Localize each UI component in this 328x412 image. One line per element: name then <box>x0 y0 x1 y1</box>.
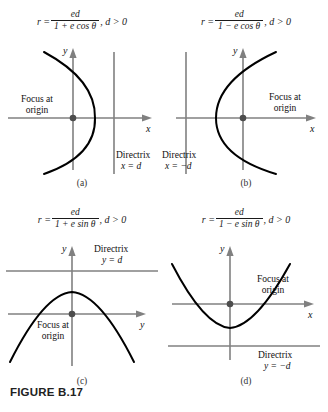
y-axis-label: y <box>220 244 224 254</box>
x-axis-label: x <box>146 124 150 134</box>
formula-b-lhs: r = <box>201 17 214 27</box>
formula-a-condition: , d > 0 <box>100 17 127 27</box>
y-axis-arrow <box>226 246 233 256</box>
focus-label-line2-b: origin <box>250 103 320 114</box>
x-axis-arrow <box>304 300 314 307</box>
formula-d-condition: , d > 0 <box>264 215 291 225</box>
directrix-label-d: Directrix <box>258 350 292 361</box>
plot-b: x y Focus at origin Directrix x = −d <box>164 40 328 178</box>
directrix-equation-c: y = d <box>102 255 122 266</box>
formula-d-numerator: ed <box>216 207 263 218</box>
formula-c-numerator: ed <box>52 207 99 218</box>
panel-caption-d: (d) <box>164 376 328 386</box>
formula-d-denominator: 1 − e sin θ <box>216 219 263 230</box>
figure-caption: FIGURE B.17 <box>10 386 83 398</box>
directrix-label-a: Directrix <box>116 150 150 161</box>
focus-label-line1-a: Focus at <box>6 94 68 105</box>
y-axis-arrow <box>69 48 76 58</box>
y-axis-arrow <box>239 48 246 58</box>
focus-label-line2-d: origin <box>238 285 308 296</box>
y-axis-label: y <box>233 46 237 56</box>
formula-b-fraction: ed1 − e cos θ <box>215 9 263 32</box>
x-axis-arrow <box>136 310 146 317</box>
panel-a: r =ed1 + e cos θ, d > 0 x y Focus at ori… <box>0 10 164 196</box>
directrix-label-c: Directrix <box>94 244 128 255</box>
directrix-label-b: Directrix <box>162 150 196 161</box>
figure-b17: r =ed1 + e cos θ, d > 0 x y Focus at ori… <box>0 0 328 412</box>
panel-c: r =ed1 + e sin θ, d > 0 y y Directrix y … <box>0 208 164 394</box>
plot-c-svg <box>0 238 164 376</box>
x-axis-arrow <box>306 114 316 121</box>
formula-a-lhs: r = <box>37 17 50 27</box>
x-axis-label: y <box>140 320 144 330</box>
plot-d: x y Focus at origin Directrix y = −d <box>164 238 328 376</box>
focus-label-line2-c: origin <box>20 331 86 342</box>
formula-b-denominator: 1 − e cos θ <box>215 21 263 32</box>
focus-label-line1-c: Focus at <box>20 320 86 331</box>
plot-c: y y Directrix y = d Focus at origin <box>0 238 164 376</box>
x-axis-label: x <box>308 310 312 320</box>
panel-b: r =ed1 − e cos θ, d > 0 x y Focus at ori… <box>164 10 328 196</box>
formula-a-denominator: 1 + e cos θ <box>51 21 99 32</box>
focus-dot <box>227 301 234 308</box>
formula-c-denominator: 1 + e sin θ <box>52 219 99 230</box>
focus-label-line1-d: Focus at <box>238 274 308 285</box>
x-axis-label: x <box>310 124 314 134</box>
focus-label-line2-a: origin <box>6 105 68 116</box>
plot-d-svg <box>164 238 328 376</box>
formula-b: r =ed1 − e cos θ, d > 0 <box>164 10 328 33</box>
formula-b-numerator: ed <box>215 9 263 20</box>
formula-d-lhs: r = <box>202 215 215 225</box>
formula-a-fraction: ed1 + e cos θ <box>51 9 99 32</box>
panel-d: r =ed1 − e sin θ, d > 0 x y Focus at ori… <box>164 208 328 394</box>
formula-b-condition: , d > 0 <box>264 17 291 27</box>
formula-d-fraction: ed1 − e sin θ <box>216 207 263 230</box>
directrix-equation-b: x = −d <box>165 161 192 172</box>
focus-dot <box>240 115 247 122</box>
directrix-equation-a: x = d <box>121 161 141 172</box>
directrix-equation-d: y = −d <box>264 361 291 372</box>
panel-caption-a: (a) <box>0 178 164 188</box>
focus-dot <box>69 311 76 318</box>
plot-a: x y Focus at origin Directrix x = d <box>0 40 164 178</box>
y-axis-arrow <box>68 246 75 256</box>
y-axis-label: y <box>63 46 67 56</box>
focus-label-line1-b: Focus at <box>250 92 320 103</box>
formula-c-fraction: ed1 + e sin θ <box>52 207 99 230</box>
formula-c: r =ed1 + e sin θ, d > 0 <box>0 208 164 231</box>
formula-a: r =ed1 + e cos θ, d > 0 <box>0 10 164 33</box>
formula-d: r =ed1 − e sin θ, d > 0 <box>164 208 328 231</box>
panel-caption-b: (b) <box>164 178 328 188</box>
y-axis-label: y <box>62 244 66 254</box>
formula-c-condition: , d > 0 <box>100 215 127 225</box>
x-axis-arrow <box>142 114 152 121</box>
focus-dot <box>70 115 77 122</box>
panel-caption-c: (c) <box>0 376 164 386</box>
formula-c-lhs: r = <box>38 215 51 225</box>
formula-a-numerator: ed <box>51 9 99 20</box>
